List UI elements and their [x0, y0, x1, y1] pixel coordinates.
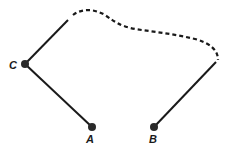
- node-c: [21, 60, 29, 68]
- node-label-b: B: [149, 133, 157, 145]
- edge-dashed-curve: [73, 10, 218, 60]
- edge-c-a: [25, 64, 92, 127]
- edge-b-up-segment: [154, 62, 216, 127]
- edge-c-up-segment: [25, 20, 68, 64]
- node-a: [88, 123, 96, 131]
- node-label-a: A: [85, 133, 94, 145]
- node-label-c: C: [9, 59, 18, 71]
- node-b: [150, 123, 158, 131]
- diagram-canvas: C A B: [0, 0, 226, 151]
